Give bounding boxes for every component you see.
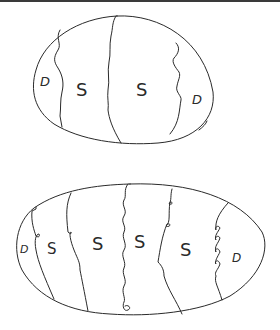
egg-top-divider-1 bbox=[55, 30, 63, 127]
egg-top-label-s2: S bbox=[136, 79, 147, 100]
egg-top bbox=[33, 16, 213, 144]
egg-bottom-label-s4: S bbox=[180, 239, 191, 260]
egg-top-label-left-d: D bbox=[40, 74, 50, 89]
egg-top-edge-stroke bbox=[199, 121, 207, 130]
egg-bottom-divider-2 bbox=[67, 193, 88, 311]
egg-top-outline bbox=[33, 16, 213, 144]
egg-bottom-label-s1: S bbox=[47, 240, 57, 258]
egg-top-label-s1: S bbox=[76, 79, 87, 100]
egg-top-divider-2 bbox=[108, 16, 121, 143]
sketch-canvas: D S S D D S S S S D bbox=[0, 0, 280, 330]
egg-top-label-right-d: D bbox=[192, 92, 202, 107]
egg-bottom-divider-5 bbox=[215, 203, 228, 300]
egg-bottom-divider-3 bbox=[123, 184, 130, 310]
egg-bottom-label-s3: S bbox=[134, 231, 145, 252]
egg-top-divider-3 bbox=[170, 43, 181, 134]
egg-bottom-label-s2: S bbox=[92, 233, 103, 254]
egg-bottom-divider-4 bbox=[158, 189, 182, 314]
egg-bottom-label-right-d: D bbox=[232, 251, 241, 265]
egg-bottom-label-left-d: D bbox=[20, 243, 28, 256]
